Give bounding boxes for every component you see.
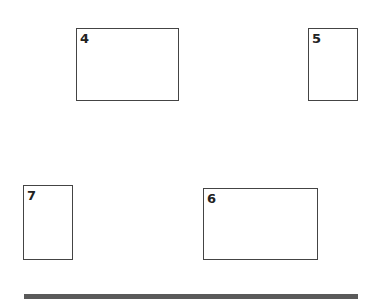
box-6-label: 6: [207, 192, 216, 206]
box-7: 7: [23, 185, 73, 260]
box-7-label: 7: [27, 189, 36, 203]
box-6: 6: [203, 188, 318, 260]
box-5: 5: [308, 28, 358, 101]
bottom-bar: [24, 294, 358, 299]
box-4-label: 4: [80, 32, 89, 46]
box-4: 4: [76, 28, 179, 101]
box-5-label: 5: [312, 32, 321, 46]
